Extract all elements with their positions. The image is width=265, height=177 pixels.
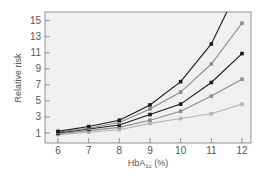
y-tick-label: 15 [30,15,42,26]
x-tick-label: 9 [147,145,153,156]
data-point-marker [179,117,183,121]
data-point-marker [179,110,183,114]
y-tick-label: 11 [31,47,42,58]
data-point-marker [179,90,183,94]
y-tick-label: 7 [35,79,41,90]
data-point-marker [148,107,152,111]
y-tick-label: 13 [30,31,42,42]
y-tick-label: 3 [35,111,41,122]
data-point-marker [210,112,214,116]
data-point-marker [240,21,244,25]
x-tick-label: 10 [175,145,187,156]
data-point-marker [240,102,244,106]
y-tick-label: 1 [35,128,41,139]
data-point-marker [56,130,60,134]
data-point-marker [210,94,214,98]
data-point-marker [148,122,152,126]
data-point-marker [148,118,152,122]
x-tick-label: 6 [55,145,61,156]
data-point-marker [210,81,214,85]
data-point-marker [240,52,244,56]
y-tick-label: 5 [35,95,41,106]
data-point-marker [87,125,91,129]
data-point-marker [148,103,152,107]
data-point-marker [179,102,183,106]
x-tick-label: 12 [236,145,248,156]
data-point-marker [240,77,244,81]
x-axis-title: HbA1c (%) [128,158,168,169]
line-chart: 13579111315 6789101112 Relative risk HbA… [0,0,265,177]
x-tick-label: 8 [117,145,123,156]
x-tick-label: 7 [86,145,92,156]
y-axis-title: Relative risk [13,53,23,103]
data-point-marker [210,62,214,66]
y-tick-label: 9 [35,63,41,74]
data-point-marker [179,80,183,84]
x-tick-label: 11 [206,145,217,156]
data-point-marker [148,113,152,117]
data-point-marker [118,118,122,122]
data-point-marker [210,42,214,46]
